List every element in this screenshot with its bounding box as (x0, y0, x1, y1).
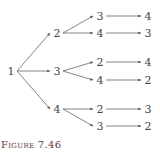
level3-node: 3 (145, 27, 152, 40)
level3-node: 3 (145, 103, 152, 116)
figure-caption: Figure 7.46 (1, 139, 61, 150)
level2-node: 2 (97, 56, 104, 69)
level3-node: 2 (145, 120, 152, 133)
level2-node: 3 (97, 120, 104, 133)
level2-node: 4 (97, 27, 104, 40)
level1-node: 2 (54, 27, 61, 40)
level3-node: 4 (145, 56, 152, 69)
tree-nodes: 1234342423434232 (8, 10, 152, 133)
level2-node: 3 (97, 10, 104, 23)
permutation-tree: 1234342423434232 (0, 0, 160, 140)
level3-node: 4 (145, 10, 152, 23)
level2-node: 2 (97, 103, 104, 116)
level1-node: 3 (54, 65, 61, 78)
root-node: 1 (8, 65, 15, 78)
tree-edges (17, 16, 141, 126)
tree-edge-arrow (17, 71, 50, 109)
tree-edge-arrow (63, 109, 93, 126)
level3-node: 2 (145, 74, 152, 87)
tree-edge-arrow (63, 16, 93, 33)
level2-node: 4 (97, 74, 104, 87)
tree-edge-arrow (63, 71, 93, 80)
level1-node: 4 (54, 103, 61, 116)
tree-edge-arrow (17, 33, 50, 71)
tree-edge-arrow (63, 62, 93, 71)
